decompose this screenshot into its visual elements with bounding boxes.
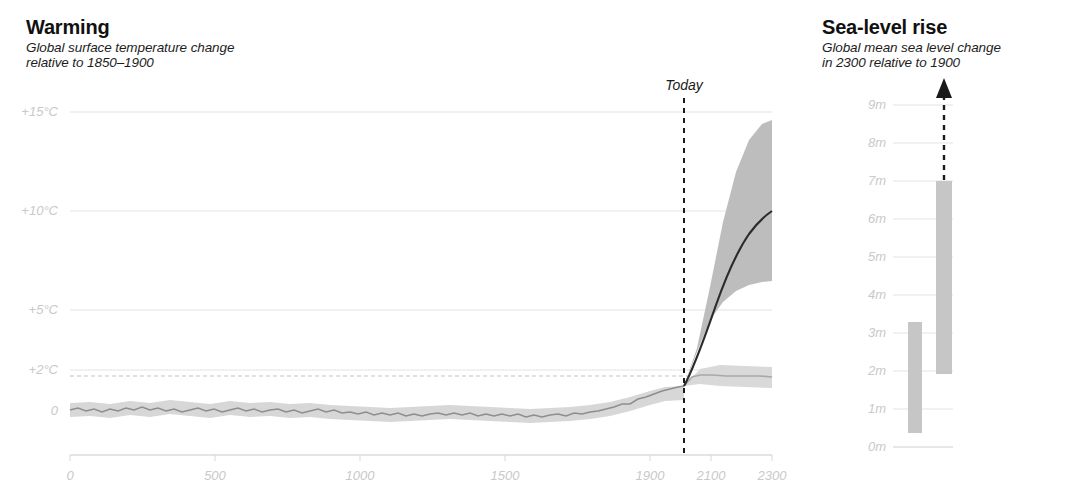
warming-xtick-2300: 2300 <box>757 468 788 483</box>
historical-uncertainty-band <box>70 386 684 423</box>
sealevel-uncertainty-arrowhead-icon <box>936 78 952 98</box>
warming-chart-svg: +15°C +10°C +5°C +2°C 0 Today <box>0 0 800 491</box>
warming-xtick-0: 0 <box>66 468 74 483</box>
sealevel-chart-svg: 9m 8m 7m 6m 5m 4m 3m 2m 1m 0m <box>800 0 1067 491</box>
sealevel-ytick-1m: 1m <box>868 401 886 416</box>
sealevel-bar-low-scenario <box>908 322 922 433</box>
warming-xtick-500: 500 <box>204 468 226 483</box>
sealevel-bar-high-scenario <box>936 181 952 374</box>
warming-gridlines <box>70 112 772 376</box>
warming-ytick-2: +2°C <box>29 362 59 377</box>
sealevel-ytick-7m: 7m <box>868 173 886 188</box>
sealevel-ytick-3m: 3m <box>868 325 886 340</box>
warming-ytick-15: +15°C <box>21 104 58 119</box>
today-label: Today <box>665 77 704 93</box>
warming-xtick-1000: 1000 <box>346 468 376 483</box>
warming-xtick-1900: 1900 <box>636 468 666 483</box>
high-scenario-range-band <box>684 120 772 386</box>
warming-ytick-0: 0 <box>51 403 59 418</box>
sealevel-ytick-5m: 5m <box>868 249 886 264</box>
warming-x-ticks <box>70 455 772 461</box>
sealevel-ytick-8m: 8m <box>868 135 886 150</box>
warming-panel: Warming Global surface temperature chang… <box>0 0 800 491</box>
warming-xtick-1500: 1500 <box>491 468 521 483</box>
warming-ytick-5: +5°C <box>29 302 59 317</box>
sealevel-ytick-4m: 4m <box>868 287 886 302</box>
sealevel-ytick-2m: 2m <box>867 363 886 378</box>
sealevel-ytick-6m: 6m <box>868 211 886 226</box>
warming-ytick-10: +10°C <box>21 203 58 218</box>
sealevel-ytick-9m: 9m <box>868 97 886 112</box>
sealevel-ytick-0m: 0m <box>868 439 886 454</box>
warming-xtick-2100: 2100 <box>696 468 727 483</box>
sealevel-panel: Sea-level rise Global mean sea level cha… <box>800 0 1067 491</box>
